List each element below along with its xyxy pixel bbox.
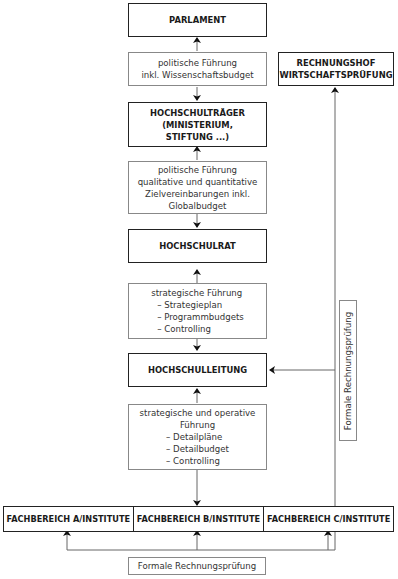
link4-item: – Detailbudget [166,443,229,455]
political-leadership-box-1: politische Führung inkl. Wissenschaftsbu… [128,52,267,86]
link1-line-2: inkl. Wissenschaftsbudget [141,69,253,81]
link3-item: – Programmbudgets [151,311,244,323]
traeger-line-1: HOCHSCHULTRÄGER [150,107,245,119]
fachbereich-a: FACHBEREICH A/INSTITUTE [4,507,134,531]
political-leadership-box-2: politische Führung qualitative und quant… [128,161,267,214]
fachbereich-b: FACHBEREICH B/INSTITUTE [134,507,265,531]
strategic-leadership-box: strategische Führung – Strategieplan – P… [128,283,267,339]
rechnungshof-line-1: RECHNUNGSHOF [297,57,376,69]
link4-item: – Controlling [166,455,229,467]
formal-audit-vertical-box: Formale Rechnungsprüfung [339,300,357,441]
rechnungshof-box: RECHNUNGSHOF WIRTSCHAFTSPRÜFUNG [278,52,394,86]
parlament-box: PARLAMENT [128,3,267,37]
hochschultraeger-box: HOCHSCHULTRÄGER (MINISTERIUM, STIFTUNG .… [128,102,267,147]
formal-audit-vertical-label: Formale Rechnungsprüfung [343,311,353,429]
hochschulrat-box: HOCHSCHULRAT [128,229,267,263]
traeger-line-3: STIFTUNG ...) [166,131,229,143]
link4-title-2: Führung [180,419,215,431]
parlament-label: PARLAMENT [169,14,226,26]
link1-line-1: politische Führung [158,57,237,69]
fachbereiche-row: FACHBEREICH A/INSTITUTE FACHBEREICH B/IN… [3,506,394,532]
link4-item: – Detailpläne [166,431,229,443]
link2-line-1: politische Führung [158,164,237,176]
hochschulrat-label: HOCHSCHULRAT [159,240,236,252]
link2-line-4: Globalbudget [169,200,227,212]
link4-title-1: strategische und operative [140,407,256,419]
link3-item: – Strategieplan [151,299,244,311]
hochschulleitung-box: HOCHSCHULLEITUNG [128,353,267,387]
formal-audit-bottom-label: Formale Rechnungsprüfung [138,560,256,572]
operative-leadership-box: strategische und operative Führung – Det… [128,404,267,470]
link3-item: – Controlling [151,323,244,335]
traeger-line-2: (MINISTERIUM, [162,119,233,131]
fachbereich-c: FACHBEREICH C/INSTITUTE [264,507,393,531]
rechnungshof-line-2: WIRTSCHAFTSPRÜFUNG [279,69,392,81]
link2-line-3: Zielvereinbarungen inkl. [145,188,250,200]
formal-audit-bottom-box: Formale Rechnungsprüfung [128,557,266,575]
link2-line-2: qualitative und quantitative [138,176,258,188]
leitung-label: HOCHSCHULLEITUNG [148,364,247,376]
link3-title: strategische Führung [151,287,244,299]
